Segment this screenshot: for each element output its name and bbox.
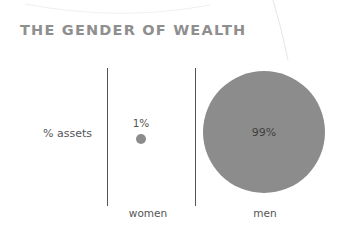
column-divider-left xyxy=(107,68,108,206)
chart-title: THE GENDER OF WEALTH xyxy=(20,22,246,38)
men-category-label: men xyxy=(253,207,276,219)
row-label-assets: % assets xyxy=(43,127,92,140)
women-value-label: 1% xyxy=(133,117,150,129)
column-divider-right xyxy=(195,68,196,206)
women-bubble xyxy=(136,134,146,144)
men-value-label: 99% xyxy=(252,126,276,139)
women-category-label: women xyxy=(129,207,167,219)
